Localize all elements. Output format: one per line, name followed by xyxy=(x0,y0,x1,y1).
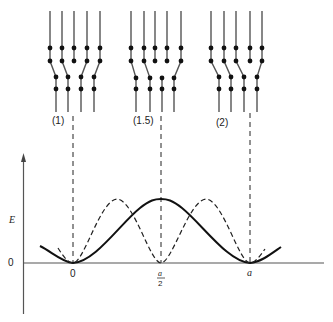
svg-text:a: a xyxy=(158,269,162,278)
dislocation-config-2: (2) xyxy=(209,11,265,128)
axes: E 0 0 a 2 a xyxy=(8,153,324,314)
x-tick-label-a: a xyxy=(247,267,252,278)
guide-lines xyxy=(73,113,250,263)
config-label-2: (2) xyxy=(216,117,228,128)
dislocation-energy-diagram: (1) (1.5) xyxy=(0,0,333,322)
atoms xyxy=(129,46,184,92)
x-tick-label-half: a 2 xyxy=(157,269,165,288)
svg-text:2: 2 xyxy=(158,279,163,288)
dislocation-config-1-5: (1.5) xyxy=(129,11,184,126)
y-origin-label: 0 xyxy=(8,257,14,268)
config-label-1-5: (1.5) xyxy=(133,115,154,126)
x-tick-label-0: 0 xyxy=(70,268,76,279)
y-axis-label: E xyxy=(8,214,15,225)
y-axis-arrow-icon xyxy=(21,153,26,162)
config-label-1: (1) xyxy=(52,115,64,126)
dislocation-config-1: (1) xyxy=(48,11,103,126)
